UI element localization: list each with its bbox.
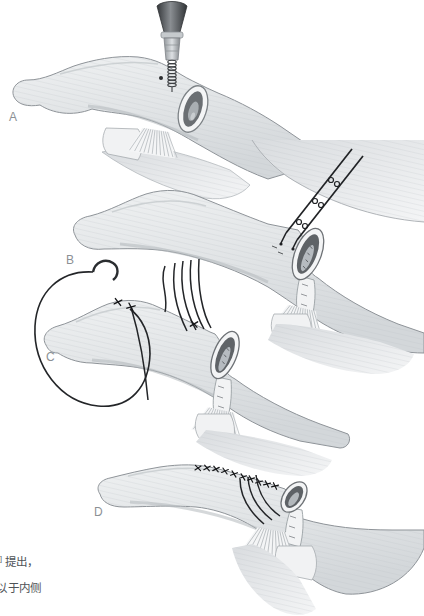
- panel-a: A: [9, 2, 321, 199]
- panel-d-label: D: [94, 505, 103, 519]
- curved-needle-icon: [93, 261, 118, 280]
- drill-collet: [164, 38, 180, 60]
- caption-clipped-char: 以: [0, 575, 7, 601]
- panel-b-label: B: [66, 253, 74, 267]
- figure-caption: ] 提出， 以于内侧: [0, 546, 80, 601]
- drill-chuck: [157, 2, 187, 35]
- caption-line-1-text: 提出，: [5, 556, 38, 568]
- panel-d: D: [94, 465, 424, 615]
- caption-line-2-text: 于内侧: [8, 582, 41, 594]
- caption-line-2: 以于内侧: [0, 575, 80, 601]
- surgical-diagram: A: [0, 0, 424, 616]
- panel-c-label: C: [46, 350, 55, 364]
- drill-hole-dot: [159, 76, 163, 80]
- caption-line-1: ] 提出，: [0, 546, 80, 575]
- figure-canvas: A: [0, 0, 424, 616]
- caption-citation-fragment: ]: [0, 555, 2, 562]
- drill-ring: [161, 32, 183, 38]
- panel-a-label: A: [9, 110, 17, 124]
- panel-b-upper-remnant-texture: [252, 140, 424, 222]
